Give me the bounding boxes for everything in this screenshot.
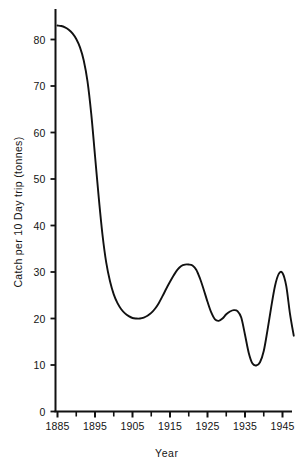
y-axis-title: Catch per 10 Day trip (tonnes) xyxy=(12,136,24,287)
x-tick-label: 1915 xyxy=(150,421,190,432)
line-chart-canvas: Catch per 10 Day trip (tonnes) xyxy=(0,0,299,466)
x-tick-label: 1925 xyxy=(188,421,228,432)
x-tick-label: 1895 xyxy=(75,421,115,432)
x-tick-label: 1885 xyxy=(38,421,78,432)
x-tick-label: 1935 xyxy=(225,421,265,432)
y-tick-label: 20 xyxy=(0,314,46,325)
data-series-line xyxy=(58,26,294,366)
y-tick-label: 60 xyxy=(0,128,46,139)
y-tick-label: 70 xyxy=(0,81,46,92)
y-tick-label: 80 xyxy=(0,35,46,46)
y-tick-label: 40 xyxy=(0,221,46,232)
y-tick-label: 50 xyxy=(0,174,46,185)
y-tick-label: 10 xyxy=(0,360,46,371)
y-tick-label: 30 xyxy=(0,267,46,278)
x-axis-title: Year xyxy=(155,448,179,459)
chart-figure: Catch per 10 Day trip (tonnes) 010203040… xyxy=(0,0,299,466)
x-tick-label: 1905 xyxy=(113,421,153,432)
y-tick-label: 0 xyxy=(0,407,46,418)
x-tick-label: 1945 xyxy=(263,421,300,432)
